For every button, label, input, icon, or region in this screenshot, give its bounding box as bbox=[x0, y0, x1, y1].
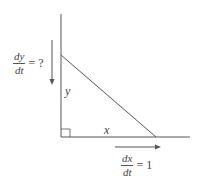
down-arrow-icon bbox=[50, 40, 55, 85]
equals-question: = ? bbox=[28, 56, 43, 71]
fraction-dx-dt: dx dt bbox=[121, 153, 133, 178]
rate-dy-dt: dy dt = ? bbox=[13, 51, 43, 76]
rate-dx-dt: dx dt = 1 bbox=[121, 153, 152, 178]
diagram-canvas bbox=[0, 0, 200, 187]
fraction-dy-dt: dy dt bbox=[13, 51, 25, 76]
label-y: y bbox=[65, 85, 70, 97]
denominator-dt: dt bbox=[15, 64, 24, 76]
right-arrow-icon bbox=[115, 145, 161, 150]
numerator-dx: dx bbox=[121, 153, 133, 166]
right-angle-marker bbox=[61, 129, 70, 137]
equals-one: = 1 bbox=[136, 158, 152, 173]
label-x: x bbox=[104, 124, 109, 136]
denominator-dt: dt bbox=[123, 166, 132, 178]
numerator-dy: dy bbox=[13, 51, 25, 64]
